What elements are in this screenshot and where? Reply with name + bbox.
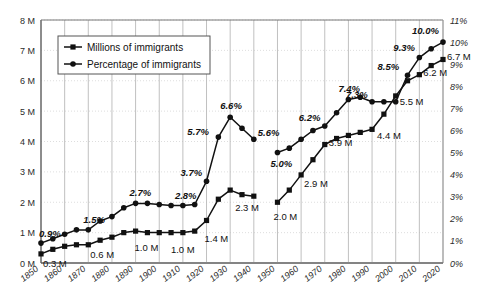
data-label: 5.0% <box>270 158 292 169</box>
marker-circle <box>168 203 174 209</box>
data-label: 4.4 M <box>377 130 401 141</box>
right-tick-label: 2% <box>449 214 463 224</box>
marker-circle <box>440 39 446 45</box>
data-label: 6.2% <box>299 112 321 123</box>
marker-square <box>86 242 91 247</box>
marker-circle <box>275 150 281 156</box>
marker-circle <box>286 145 292 151</box>
data-label: 2.0 M <box>273 211 297 222</box>
data-label: 3.7% <box>181 167 203 178</box>
marker-circle <box>334 110 340 116</box>
marker-square <box>145 230 150 235</box>
right-tick-label: 7% <box>450 104 463 114</box>
chart-legend: Millions of immigrantsPercentage of immi… <box>58 36 210 74</box>
data-label: 2.8% <box>174 190 197 201</box>
marker-circle <box>298 136 304 142</box>
marker-square <box>239 192 244 197</box>
marker-circle <box>156 202 162 208</box>
left-tick-label: 5 M <box>20 107 35 117</box>
data-label: 0.9% <box>39 228 61 239</box>
marker-circle <box>133 201 139 207</box>
marker-circle <box>216 134 222 140</box>
data-label: 2.3 M <box>235 202 259 213</box>
data-label: 1.0 M <box>135 242 159 253</box>
data-label: 6.6% <box>220 100 242 111</box>
marker-circle <box>428 46 434 52</box>
legend-label-0: Millions of immigrants <box>87 42 183 53</box>
marker-circle <box>239 125 245 131</box>
right-tick-label: 5% <box>450 148 463 158</box>
marker-circle <box>192 202 198 208</box>
data-label: 6.7 M <box>447 51 471 62</box>
marker-circle <box>251 136 257 142</box>
left-tick-label: 8 M <box>20 16 35 26</box>
right-tick-label: 10% <box>450 38 468 48</box>
marker-circle <box>369 99 375 105</box>
right-tick-label: 0% <box>450 259 463 269</box>
legend-marker-circle <box>70 61 76 67</box>
data-label: 9.3% <box>393 42 415 53</box>
right-tick-label: 3% <box>450 192 463 202</box>
chart-canvas: 8 M7 M6 M5 M4 M3 M2 M1 M0 M 11%10%9%8%7%… <box>0 0 486 308</box>
legend-marker-square <box>70 44 75 49</box>
marker-square <box>358 130 363 135</box>
marker-square <box>168 230 173 235</box>
marker-square <box>98 238 103 243</box>
marker-square <box>204 218 209 223</box>
marker-square <box>109 235 114 240</box>
left-tick-label: 7 M <box>20 46 35 56</box>
left-tick-label: 6 M <box>20 76 35 86</box>
marker-circle <box>393 99 399 105</box>
marker-circle <box>310 128 316 134</box>
left-axis-ticks: 8 M7 M6 M5 M4 M3 M2 M1 M0 M <box>20 16 35 269</box>
data-label: 5.5 M <box>400 96 424 107</box>
marker-square <box>121 230 126 235</box>
marker-square <box>310 157 315 162</box>
marker-square <box>299 172 304 177</box>
right-tick-label: 6% <box>450 126 463 136</box>
marker-square <box>228 188 233 193</box>
left-tick-label: 2 M <box>20 198 35 208</box>
marker-square <box>381 112 386 117</box>
marker-square <box>287 188 292 193</box>
data-label: 2.7% <box>129 187 152 198</box>
marker-square <box>157 230 162 235</box>
data-label: 0.6 M <box>90 249 114 260</box>
marker-square <box>133 229 138 234</box>
data-label: 1.0 M <box>171 244 195 255</box>
left-tick-label: 1 M <box>20 228 35 238</box>
marker-square <box>369 127 374 132</box>
marker-circle <box>145 201 151 207</box>
right-tick-label: 1% <box>450 236 463 246</box>
data-label: 3.9 M <box>329 137 353 148</box>
left-tick-label: 4 M <box>20 137 35 147</box>
marker-circle <box>121 205 127 211</box>
data-label: 5.7% <box>187 126 209 137</box>
data-label: 2.9 M <box>304 178 328 189</box>
marker-square <box>62 244 67 249</box>
marker-circle <box>85 227 91 233</box>
legend-label-1: Percentage of immigrants <box>87 59 201 70</box>
data-label: 10.0% <box>412 25 439 36</box>
left-tick-label: 3 M <box>20 167 35 177</box>
marker-circle <box>227 114 233 120</box>
marker-square <box>192 229 197 234</box>
right-tick-label: 8% <box>450 82 463 92</box>
marker-square <box>322 142 327 147</box>
marker-circle <box>62 231 68 237</box>
data-label: 1.4 M <box>205 233 229 244</box>
marker-square <box>417 72 422 77</box>
marker-circle <box>381 99 387 105</box>
marker-circle <box>180 203 186 209</box>
marker-circle <box>38 240 44 246</box>
marker-circle <box>109 214 115 220</box>
right-tick-label: 4% <box>450 170 463 180</box>
data-label: 1.5% <box>83 214 105 225</box>
marker-circle <box>322 123 328 129</box>
marker-square <box>440 57 445 62</box>
marker-square <box>275 200 280 205</box>
data-label: 8.5% <box>378 61 400 72</box>
marker-square <box>74 242 79 247</box>
immigration-chart: 8 M7 M6 M5 M4 M3 M2 M1 M0 M 11%10%9%8%7%… <box>0 0 486 308</box>
marker-square <box>38 251 43 256</box>
